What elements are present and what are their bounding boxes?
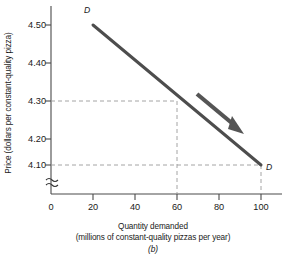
- y-axis-break-icon: [46, 179, 58, 187]
- demand-curve-label-start: D: [84, 6, 90, 15]
- x-axis-title: Quantity demanded (millions of constant-…: [28, 222, 278, 243]
- x-axis-title-line1: Quantity demanded: [28, 222, 278, 233]
- panel-label: (b): [28, 244, 278, 254]
- demand-curve-label-end: D: [266, 163, 272, 172]
- plot-area: [0, 0, 286, 258]
- demand-curve-figure: Price (dollars per constant-quality pizz…: [0, 0, 286, 258]
- movement-along-curve-arrow: [197, 94, 244, 134]
- x-axis-title-line2: (millions of constant-quality pizzas per…: [28, 233, 278, 244]
